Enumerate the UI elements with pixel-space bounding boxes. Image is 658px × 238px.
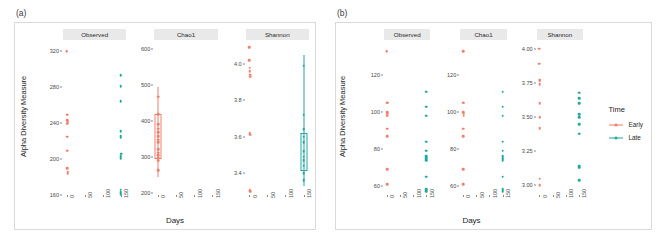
y-tick-label: 3.75 — [513, 80, 533, 86]
y-tick-label: 120 — [360, 72, 380, 78]
facet-strip-shannon: Shannon — [246, 29, 309, 40]
y-tick-mark — [457, 75, 459, 76]
x-tick-mark — [67, 195, 68, 197]
y-tick-mark — [60, 159, 62, 160]
data-point — [538, 102, 541, 105]
data-point — [157, 127, 160, 130]
y-axis-title: Alpha Diversity Measure — [338, 75, 347, 156]
data-point — [157, 135, 160, 138]
y-tick-label: 280 — [41, 84, 59, 90]
y-tick-mark — [534, 48, 536, 49]
x-tick-mark — [285, 195, 286, 197]
y-tick-label: 100 — [436, 109, 456, 115]
x-tick-mark — [267, 195, 268, 197]
x-tick-label: 50 — [178, 192, 184, 198]
panel-b-plot-area: Alpha Diversity MeasureObserved608010012… — [335, 22, 652, 230]
facet-strip-observed: Observed — [63, 29, 126, 40]
data-point — [501, 105, 504, 108]
y-tick-label: 400 — [132, 118, 150, 124]
data-point — [302, 159, 305, 162]
x-tick-label: 150 — [123, 189, 129, 198]
x-tick-mark — [476, 195, 477, 197]
x-tick-label: 100 — [105, 189, 111, 198]
x-tick-mark — [249, 195, 250, 197]
data-point — [425, 114, 428, 117]
data-point — [386, 102, 389, 105]
data-point — [120, 130, 123, 133]
data-point — [462, 102, 465, 105]
data-point — [302, 114, 305, 117]
y-tick-mark — [243, 100, 245, 101]
y-tick-mark — [381, 148, 383, 149]
data-point — [462, 114, 465, 117]
data-point — [120, 74, 123, 77]
data-point — [386, 127, 389, 130]
facet-strip-chao1: Chao1 — [154, 29, 217, 40]
data-point — [120, 85, 123, 88]
y-tick-mark — [243, 136, 245, 137]
data-point — [538, 184, 541, 187]
x-tick-mark — [553, 195, 554, 197]
data-point — [578, 123, 581, 126]
data-point — [578, 132, 581, 135]
data-point — [425, 90, 428, 93]
x-tick-label: 100 — [492, 189, 498, 198]
y-tick-mark — [457, 185, 459, 186]
data-point — [302, 155, 305, 158]
y-tick-label: 600 — [132, 46, 150, 52]
x-tick-label: 150 — [581, 189, 587, 198]
legend: TimeEarlyLate — [608, 105, 643, 145]
data-point — [157, 169, 160, 172]
y-tick-label: 120 — [436, 72, 456, 78]
y-tick-mark — [243, 173, 245, 174]
y-tick-label: 200 — [41, 156, 59, 162]
legend-item-late[interactable]: Late — [608, 132, 643, 143]
data-point — [66, 123, 69, 126]
x-tick-mark — [194, 195, 195, 197]
y-tick-mark — [60, 123, 62, 124]
x-tick-mark — [539, 195, 540, 197]
y-tick-label: 60 — [360, 183, 380, 189]
x-tick-mark — [566, 195, 567, 197]
data-point — [501, 90, 504, 93]
legend-item-early[interactable]: Early — [608, 119, 643, 130]
x-tick-label: 100 — [288, 189, 294, 198]
y-tick-label: 320 — [41, 48, 59, 54]
y-tick-mark — [151, 121, 153, 122]
y-tick-label: 300 — [132, 154, 150, 160]
data-point — [386, 114, 389, 117]
data-point — [302, 165, 305, 168]
x-tick-label: 150 — [429, 189, 435, 198]
data-point — [66, 150, 69, 153]
x-tick-label: 100 — [197, 189, 203, 198]
data-point — [157, 123, 160, 126]
x-tick-label: 50 — [402, 192, 408, 198]
x-tick-label: 150 — [505, 189, 511, 198]
y-tick-label: 3.6 — [224, 134, 242, 140]
x-tick-mark — [463, 195, 464, 197]
y-tick-label: 3.25 — [513, 148, 533, 154]
data-point — [386, 168, 389, 171]
data-point — [249, 190, 252, 193]
data-point — [462, 168, 465, 171]
x-tick-label: 0 — [252, 195, 258, 198]
data-point — [120, 100, 123, 103]
x-tick-label: 0 — [389, 195, 395, 198]
data-point — [539, 79, 542, 82]
x-tick-label: 0 — [465, 195, 471, 198]
data-point — [425, 140, 428, 143]
data-point — [538, 48, 541, 51]
y-tick-label: 3.50 — [513, 114, 533, 120]
data-point — [501, 114, 504, 117]
data-point — [66, 114, 69, 117]
y-tick-mark — [243, 63, 245, 64]
data-point — [425, 175, 428, 178]
data-point — [157, 148, 160, 151]
data-point — [578, 91, 581, 94]
x-tick-label: 150 — [306, 189, 312, 198]
x-tick-mark — [304, 195, 305, 197]
data-point — [302, 150, 305, 153]
data-point — [66, 172, 69, 175]
data-point — [120, 157, 123, 160]
y-tick-mark — [151, 85, 153, 86]
